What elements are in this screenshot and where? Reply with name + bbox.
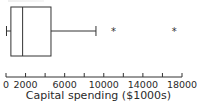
outlier-marker: *	[172, 26, 177, 37]
x-axis-label: Capital spending ($1000s)	[0, 89, 197, 102]
outlier-marker: *	[111, 26, 116, 37]
boxplot-chart: **020006000100001400018000	[0, 0, 197, 90]
iqr-box	[11, 7, 51, 56]
